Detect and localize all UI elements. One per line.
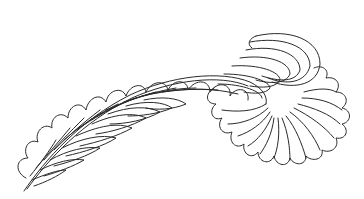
- fiddlehead-curl: [207, 34, 349, 165]
- fern-illustration: [0, 0, 364, 199]
- upper-leaflets: [18, 82, 248, 178]
- fern-drawing: [0, 0, 364, 199]
- fern-stem-inner: [27, 80, 248, 189]
